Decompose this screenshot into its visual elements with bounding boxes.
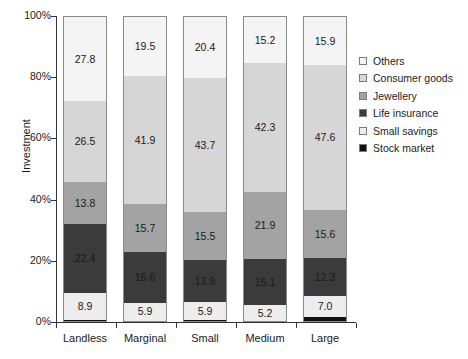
legend-swatch-icon [359, 144, 367, 152]
legend-label: Life insurance [373, 108, 438, 119]
legend-label: Consumer goods [373, 73, 453, 84]
legend-item-others[interactable]: Others [359, 52, 467, 70]
bar-segment-value: 22.4 [75, 253, 95, 264]
legend-label: Others [373, 56, 405, 67]
x-tick-mark [296, 323, 297, 328]
legend-item-small-savings[interactable]: Small savings [359, 122, 467, 140]
legend-label: Stock market [373, 143, 434, 154]
bar-segment[interactable]: 26.5 [63, 101, 107, 182]
y-tick-label: 20% [17, 255, 51, 266]
bar-segment-value: 20.4 [195, 42, 215, 53]
y-tick-label: 40% [17, 194, 51, 205]
x-tick-mark [56, 323, 57, 328]
bar-segment[interactable]: 5.2 [243, 305, 287, 321]
bar-segment[interactable]: 8.9 [63, 293, 107, 320]
bar-segment-value: 15.1 [255, 277, 275, 288]
bar-segment[interactable]: 15.5 [183, 212, 227, 259]
legend-item-consumer-goods[interactable]: Consumer goods [359, 70, 467, 88]
bar-segment-value: 15.9 [315, 36, 335, 47]
bar-segment[interactable]: 43.7 [183, 78, 227, 212]
bar-segment[interactable]: 21.9 [243, 192, 287, 259]
bar-segment-value: 7.0 [318, 301, 333, 312]
bar-segment-value: 43.7 [195, 140, 215, 151]
bar-segment[interactable] [303, 317, 347, 322]
bar-segment[interactable]: 12.3 [303, 258, 347, 296]
bar-segment[interactable]: 15.9 [303, 16, 347, 65]
legend-swatch-icon [359, 127, 367, 135]
bar-segment-value: 27.8 [75, 54, 95, 65]
y-tick-label: 60% [17, 132, 51, 143]
bar-segment[interactable]: 27.8 [63, 16, 107, 101]
x-axis-label-large: Large [280, 332, 370, 344]
bar-segment-value: 5.9 [138, 306, 153, 317]
y-tick-label: 0% [17, 316, 51, 327]
bar-segment-value: 5.9 [198, 306, 213, 317]
bar-segment[interactable]: 15.2 [243, 16, 287, 63]
stacked-bar-chart: Investment 0%20%40%60%80%100% 27.826.513… [0, 0, 468, 359]
bar-segment[interactable]: 13.9 [183, 260, 227, 303]
bar-medium[interactable]: 15.242.321.915.15.2 [243, 16, 287, 322]
legend-label: Jewellery [373, 91, 417, 102]
bar-segment-value: 15.5 [195, 231, 215, 242]
bar-segment-value: 42.3 [255, 122, 275, 133]
legend-swatch-icon [359, 57, 367, 65]
bar-segment-value: 5.2 [258, 308, 273, 319]
x-axis-line [56, 322, 356, 323]
bar-segment-value: 15.6 [315, 229, 335, 240]
legend-swatch-icon [359, 74, 367, 82]
bar-segment[interactable]: 22.4 [63, 224, 107, 293]
bar-segment-value: 26.5 [75, 136, 95, 147]
bar-segment[interactable]: 42.3 [243, 63, 287, 192]
bar-segment-value: 41.9 [135, 135, 155, 146]
bar-segment-value: 13.8 [75, 198, 95, 209]
bar-segment[interactable] [183, 320, 227, 322]
bar-segment-value: 16.6 [135, 272, 155, 283]
bar-large[interactable]: 15.947.615.612.37.0 [303, 16, 347, 322]
bar-segment-value: 21.9 [255, 220, 275, 231]
bar-segment[interactable] [123, 321, 167, 322]
bar-segment[interactable] [63, 320, 107, 322]
bar-landless[interactable]: 27.826.513.822.48.9 [63, 16, 107, 322]
bar-segment[interactable]: 13.8 [63, 182, 107, 224]
legend-item-jewellery[interactable]: Jewellery [359, 87, 467, 105]
x-tick-mark [116, 323, 117, 328]
bar-small[interactable]: 20.443.715.513.95.9 [183, 16, 227, 322]
bar-segment-value: 47.6 [315, 132, 335, 143]
legend-item-life-insurance[interactable]: Life insurance [359, 105, 467, 123]
y-tick-label: 100% [17, 10, 51, 21]
bar-segment-value: 15.2 [255, 35, 275, 46]
legend-item-stock-market[interactable]: Stock market [359, 140, 467, 158]
bar-segment[interactable]: 19.5 [123, 16, 167, 76]
legend-label: Small savings [373, 126, 438, 137]
bar-segment-value: 12.3 [315, 272, 335, 283]
bar-segment[interactable]: 15.6 [303, 210, 347, 258]
bar-segment[interactable]: 41.9 [123, 76, 167, 204]
bar-segment[interactable] [243, 321, 287, 322]
bar-segment[interactable]: 15.1 [243, 259, 287, 305]
x-tick-mark [236, 323, 237, 328]
bar-segment[interactable]: 7.0 [303, 296, 347, 317]
bar-segment[interactable]: 16.6 [123, 252, 167, 303]
x-tick-mark [356, 323, 357, 328]
legend: OthersConsumer goodsJewelleryLife insura… [359, 52, 467, 157]
y-tick-label: 80% [17, 71, 51, 82]
legend-swatch-icon [359, 109, 367, 117]
legend-swatch-icon [359, 92, 367, 100]
bar-segment[interactable]: 15.7 [123, 204, 167, 252]
y-axis-ticks: 0%20%40%60%80%100% [11, 0, 51, 306]
y-axis-line [56, 16, 57, 323]
bar-segment-value: 8.9 [78, 301, 93, 312]
bar-segment[interactable]: 5.9 [123, 303, 167, 321]
x-tick-mark [176, 323, 177, 328]
bar-marginal[interactable]: 19.541.915.716.65.9 [123, 16, 167, 322]
bar-segment[interactable]: 20.4 [183, 16, 227, 78]
bar-segment[interactable]: 47.6 [303, 65, 347, 211]
bar-segment-value: 15.7 [135, 223, 155, 234]
bar-segment[interactable]: 5.9 [183, 302, 227, 320]
bar-segment-value: 19.5 [135, 41, 155, 52]
bar-segment-value: 13.9 [195, 276, 215, 287]
